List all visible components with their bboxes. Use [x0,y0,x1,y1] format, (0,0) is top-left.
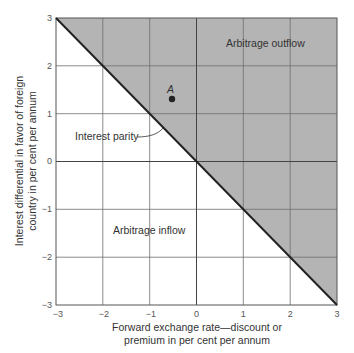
svg-text:1: 1 [241,309,246,319]
svg-text:1: 1 [47,109,52,119]
svg-text:3: 3 [47,13,52,23]
y-axis-label: Interest differential in favor of foreig… [13,76,38,246]
arbitrage-outflow-label: Arbitrage outflow [226,37,305,49]
svg-text:−1: −1 [146,309,156,319]
svg-text:premium in per cent per annum: premium in per cent per annum [124,334,270,346]
interest-parity-chart: A Arbitrage outflow Arbitrage inflow Int… [0,0,354,353]
svg-text:0: 0 [194,309,199,319]
svg-text:−2: −2 [99,309,109,319]
y-ticks: 3 2 1 0 −1 −2 −3 [42,13,52,310]
svg-text:3: 3 [334,309,339,319]
svg-text:−1: −1 [42,204,52,214]
arbitrage-inflow-label: Arbitrage inflow [113,224,186,236]
point-a [169,96,175,102]
interest-parity-label: Interest parity [75,130,139,142]
svg-text:0: 0 [47,156,52,166]
svg-text:Interest differential in favor: Interest differential in favor of foreig… [13,76,25,246]
svg-text:−3: −3 [53,309,63,319]
svg-text:Forward exchange rate—discount: Forward exchange rate—discount or [112,321,282,333]
svg-text:2: 2 [288,309,293,319]
svg-text:−3: −3 [42,300,52,310]
svg-text:−2: −2 [42,252,52,262]
x-axis-label: Forward exchange rate—discount or premiu… [112,321,282,346]
x-ticks: −3 −2 −1 0 1 2 3 [53,309,340,319]
svg-text:country in per cent per annum: country in per cent per annum [26,91,38,231]
svg-text:2: 2 [47,61,52,71]
point-a-label: A [166,83,174,95]
